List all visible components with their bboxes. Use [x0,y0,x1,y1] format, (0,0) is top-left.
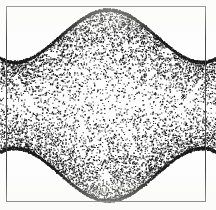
figure-root [0,0,216,210]
figure-frame [6,6,206,202]
